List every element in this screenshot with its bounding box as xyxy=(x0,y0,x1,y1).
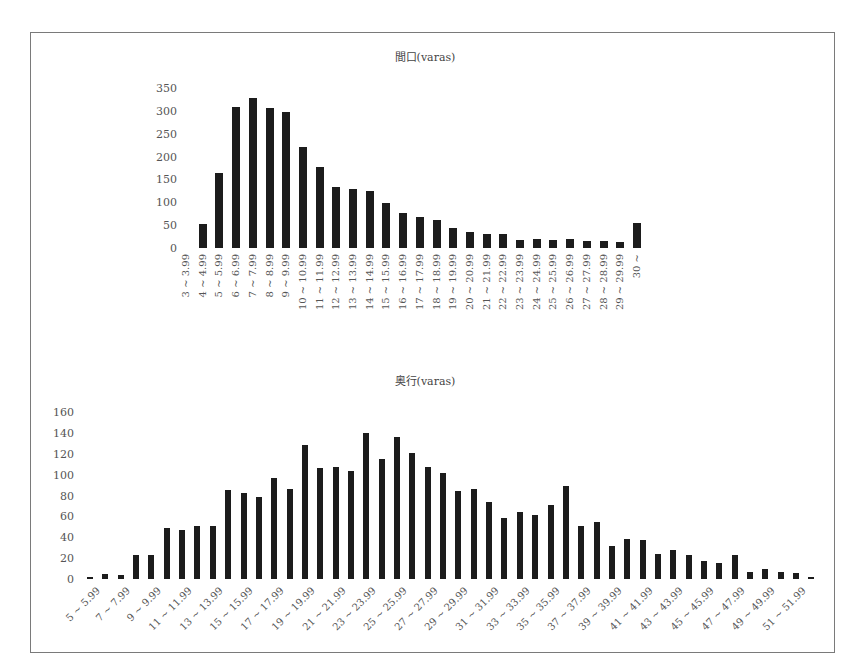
bar xyxy=(210,526,216,579)
chart-title: 奥行(varas) xyxy=(395,372,456,388)
bar xyxy=(793,573,799,579)
bar xyxy=(333,467,339,579)
bar xyxy=(686,555,692,579)
bar xyxy=(409,453,415,579)
bar xyxy=(501,518,507,579)
bar xyxy=(287,489,293,579)
bar xyxy=(486,502,492,579)
y-tick-label: 80 xyxy=(34,489,74,502)
bar xyxy=(624,539,630,579)
y-tick-label: 160 xyxy=(34,406,74,419)
bar xyxy=(594,522,600,579)
bar xyxy=(747,572,753,579)
bar xyxy=(670,550,676,579)
bar xyxy=(302,445,308,579)
bar xyxy=(548,505,554,579)
y-tick-label: 100 xyxy=(34,468,74,481)
bar xyxy=(732,555,738,579)
bar xyxy=(609,546,615,579)
bar xyxy=(655,554,661,579)
bar xyxy=(225,490,231,579)
bar xyxy=(425,467,431,579)
bar xyxy=(778,572,784,579)
y-tick-label: 120 xyxy=(34,447,74,460)
bar xyxy=(164,528,170,579)
bar xyxy=(517,512,523,579)
bar xyxy=(348,471,354,579)
figure-caption xyxy=(0,664,858,672)
bar xyxy=(394,437,400,579)
bar xyxy=(379,459,385,579)
bar xyxy=(440,473,446,579)
bar xyxy=(102,574,108,579)
bar xyxy=(148,555,154,579)
bar xyxy=(256,497,262,579)
depth-histogram: 奥行(varas) 020406080100120140160 5 ~ 5.99… xyxy=(0,0,858,660)
bar xyxy=(471,489,477,579)
bar xyxy=(701,561,707,579)
bar xyxy=(179,530,185,579)
bar xyxy=(532,515,538,579)
bar xyxy=(317,468,323,579)
y-tick-label: 140 xyxy=(34,426,74,439)
bar xyxy=(87,577,93,579)
bar xyxy=(578,526,584,579)
bar xyxy=(762,569,768,579)
bar xyxy=(271,478,277,579)
bar xyxy=(716,563,722,579)
bar xyxy=(455,491,461,579)
y-tick-label: 60 xyxy=(34,510,74,523)
bar xyxy=(363,433,369,579)
y-tick-label: 40 xyxy=(34,531,74,544)
y-tick-label: 0 xyxy=(34,573,74,586)
bar xyxy=(808,577,814,579)
y-tick-label: 20 xyxy=(34,552,74,565)
bar xyxy=(563,486,569,579)
bar xyxy=(241,493,247,579)
bar xyxy=(133,555,139,579)
bar xyxy=(118,575,124,579)
bar xyxy=(194,526,200,579)
bar xyxy=(640,540,646,579)
